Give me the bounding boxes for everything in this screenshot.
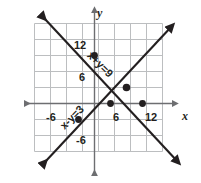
y-tick-label-6: 6 (79, 72, 85, 83)
y-axis-label: y (97, 7, 102, 19)
x-tick-label-neg6: -6 (46, 112, 56, 123)
point-3-0 (107, 100, 114, 107)
y-tick-label-12: 12 (74, 40, 86, 51)
line-x-minus-y-equals-3 (45, 26, 172, 162)
x-tick-label-12: 12 (145, 112, 157, 123)
point-9-0 (139, 100, 146, 107)
coordinate-graph-figure: 12 6 -6 -6 6 12 y x x+y=9 x-y=3 (0, 0, 201, 183)
graph-canvas (0, 0, 201, 183)
grid-lines (35, 24, 163, 152)
x-axis-label: x (182, 110, 188, 122)
point-intersection-6-3 (123, 84, 131, 92)
x-tick-label-6: 6 (113, 112, 119, 123)
y-tick-label-neg6: -6 (76, 135, 86, 146)
